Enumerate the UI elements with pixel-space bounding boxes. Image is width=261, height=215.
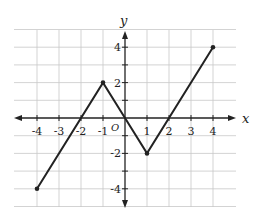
- y-tick-label: 4: [114, 41, 121, 54]
- x-tick-label: 3: [188, 125, 195, 138]
- y-tick-label: 2: [114, 77, 121, 90]
- y-axis-label: y: [119, 13, 128, 28]
- x-tick-label: -2: [76, 125, 87, 138]
- x-tick-label: -4: [32, 125, 43, 138]
- x-tick-label: 2: [166, 125, 173, 138]
- vertex-point: [101, 80, 106, 85]
- x-tick-label: 4: [210, 125, 217, 138]
- coordinate-plane: -4-3-2-1123442-2-4 x y O: [0, 0, 261, 215]
- x-tick-label: 1: [144, 125, 151, 138]
- vertex-point: [35, 187, 40, 192]
- x-tick-label: -3: [54, 125, 65, 138]
- x-tick-label: -1: [98, 125, 109, 138]
- vertex-point: [211, 45, 216, 50]
- vertex-point: [145, 151, 150, 156]
- y-tick-label: -4: [110, 183, 121, 196]
- origin-label: O: [111, 122, 119, 133]
- x-axis-label: x: [242, 111, 250, 126]
- y-tick-label: -2: [110, 147, 121, 160]
